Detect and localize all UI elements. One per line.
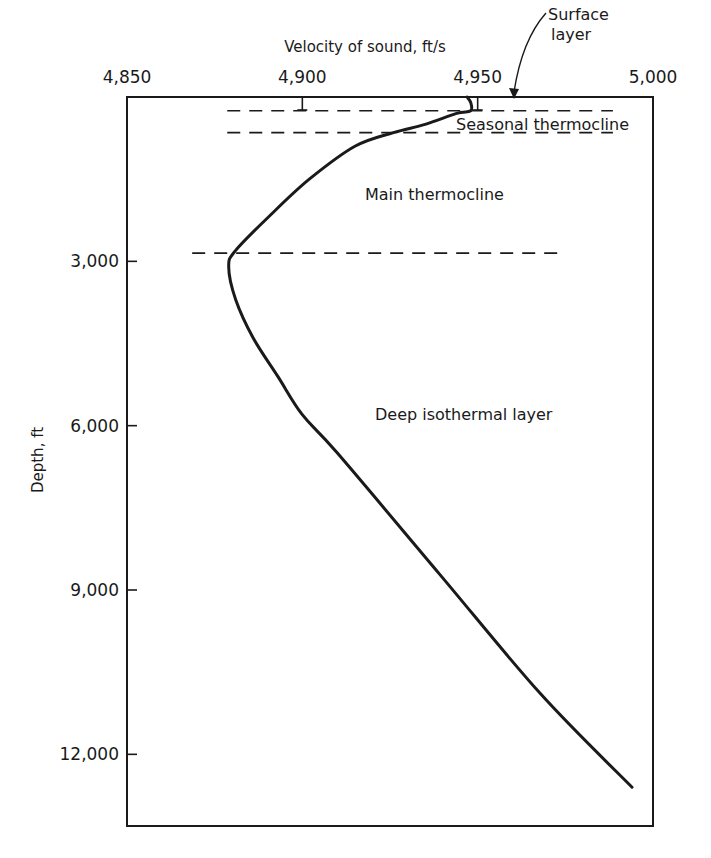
surface-layer-label-line1: Surface [548,5,609,24]
main-thermocline-label: Main thermocline [365,185,504,204]
y-axis-title: Depth, ft [29,427,47,493]
x-tick-label: 4,900 [278,67,327,87]
y-axis-ticks: 3,0006,0009,00012,000 [60,251,137,764]
x-axis-title: Velocity of sound, ft/s [284,38,446,56]
surface-layer-arrow [514,13,546,92]
y-tick-label: 12,000 [60,744,119,764]
x-tick-label: 4,950 [453,67,502,87]
x-tick-label: 5,000 [629,67,678,87]
surface-layer-label-line2: layer [551,25,592,44]
deep-isothermal-layer-label: Deep isothermal layer [375,405,553,424]
x-tick-label: 4,850 [103,67,152,87]
x-axis-ticks: 4,8504,9004,9505,000 [103,67,678,110]
y-tick-label: 9,000 [70,580,119,600]
seasonal-thermocline-label: Seasonal thermocline [456,115,629,134]
y-tick-label: 3,000 [70,251,119,271]
sound-velocity-chart: 4,8504,9004,9505,000 3,0006,0009,00012,0… [0,0,711,858]
y-tick-label: 6,000 [70,416,119,436]
plot-frame [127,97,653,826]
plot-border [127,97,653,826]
surface-layer-annotation: Surface layer [509,5,609,99]
